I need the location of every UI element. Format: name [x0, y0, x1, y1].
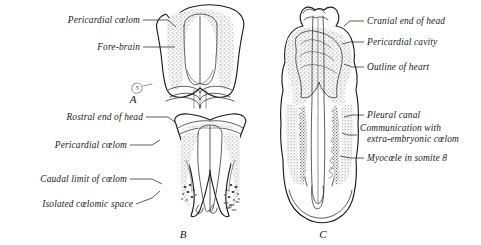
somite-number-b: 8: [228, 202, 232, 209]
label-communication-line2-c: extra-embryonic cœlom: [367, 134, 459, 144]
panel-b-drawing: 8: [175, 114, 246, 217]
label-rostral-end-of-head-b: Rostral end of head: [65, 112, 143, 122]
label-outline-of-heart-c: Outline of heart: [367, 62, 430, 72]
label-communication-line1-c: Communication with: [360, 123, 441, 133]
panel-c-labels: Cranial end of head Pericardial cavity O…: [360, 16, 459, 163]
panel-b-labels: Rostral end of head Pericardial cœlom Ca…: [40, 112, 143, 209]
panel-c-drawing: [281, 7, 359, 223]
label-pleural-canal-c: Pleural canal: [366, 110, 420, 120]
somite-number-a: 5: [135, 84, 139, 91]
figure-page: 5: [0, 0, 481, 245]
leader-rostral-end-of-head-b: [146, 117, 176, 123]
label-pericardial-coelom-b: Pericardial cœlom: [54, 140, 127, 150]
leader-caudal-limit-of-coelom-b: [130, 179, 162, 184]
label-isolated-coelomic-space-b: Isolated cœlomic space: [41, 199, 133, 209]
panel-a-labels: Pericardial cœlom Fore-brain: [67, 15, 140, 52]
leader-pericardial-coelom-b: [130, 140, 160, 145]
label-pericardial-coelom-a: Pericardial cœlom: [67, 15, 140, 25]
label-fore-brain-a: Fore-brain: [96, 42, 140, 52]
figure-letter-c: C: [319, 228, 327, 240]
leader-isolated-coelomic-space-b: [136, 191, 160, 204]
label-caudal-limit-of-coelom-b: Caudal limit of cœlom: [40, 174, 127, 184]
embryo-coelom-figure: 5: [0, 0, 481, 245]
label-pericardial-cavity-c: Pericardial cavity: [366, 37, 438, 47]
figure-letter-a: A: [129, 93, 137, 105]
leader-cranial-end-of-head-c: [344, 21, 364, 26]
figure-letter-b: B: [180, 228, 187, 240]
label-cranial-end-of-head-c: Cranial end of head: [367, 16, 445, 26]
label-myocoele-in-somite-8-c: Myocœle in somite 8: [366, 153, 447, 163]
